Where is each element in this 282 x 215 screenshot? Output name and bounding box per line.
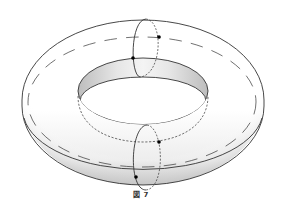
point-upper-dashed [157,35,161,39]
figure-caption: 図 7 [0,189,282,199]
point-upper-rim [131,56,135,60]
torus-diagram [0,0,282,215]
point-lower-dashed [157,140,161,144]
point-lower-band [134,175,138,179]
